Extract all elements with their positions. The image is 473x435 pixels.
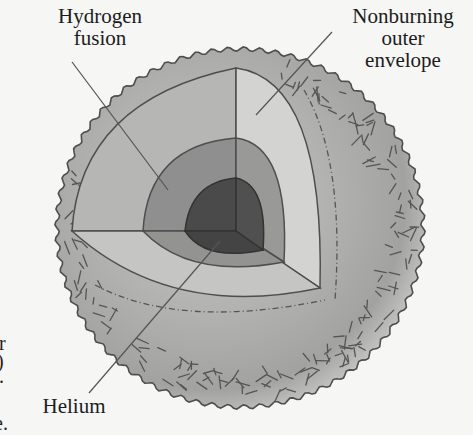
- label-hydrogen-fusion: Hydrogen fusion: [40, 5, 160, 49]
- label-nonburning-line2: outer: [338, 27, 468, 49]
- edge-text-fragment: e.: [0, 413, 8, 433]
- label-hydrogen-line2: fusion: [40, 27, 160, 49]
- label-nonburning-line3: envelope: [338, 49, 468, 71]
- label-nonburning-line1: Nonburning: [338, 5, 468, 27]
- label-hydrogen-line1: Hydrogen: [40, 5, 160, 27]
- edge-text-fragment: .: [0, 366, 4, 386]
- label-nonburning-envelope: Nonburning outer envelope: [338, 5, 468, 71]
- label-helium: Helium: [32, 395, 116, 417]
